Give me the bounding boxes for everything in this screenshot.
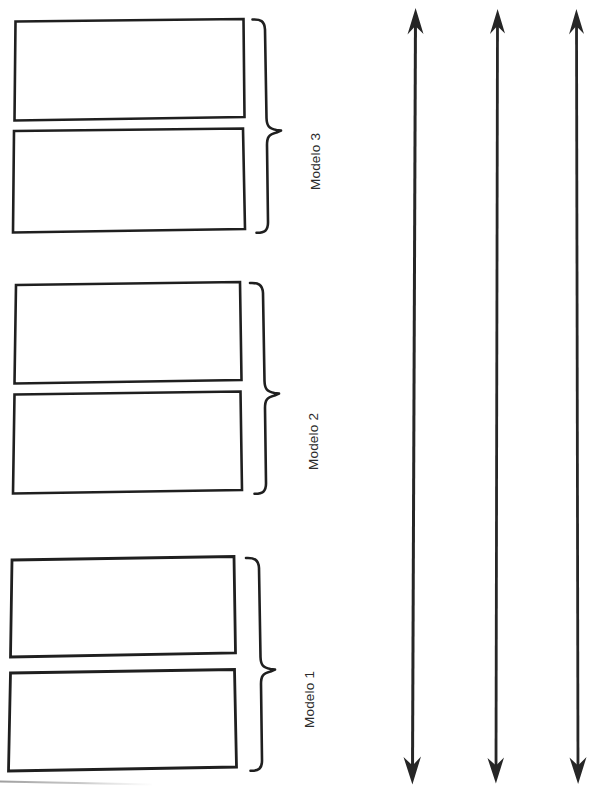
arrow-1[interactable] <box>403 6 427 786</box>
page-edge-line-icon <box>0 782 152 785</box>
curly-brace-rotated-icon-modelo-3 <box>253 19 282 232</box>
curly-brace-rotated-icon-modelo-1 <box>246 558 275 771</box>
group-label-modelo-3: Modelo 3 <box>309 133 323 190</box>
group-label-modelo-1: Modelo 1 <box>303 671 317 728</box>
group-label-modelo-2: Modelo 2 <box>307 413 321 470</box>
panel-modelo-2-b[interactable] <box>13 391 242 494</box>
arrow-2[interactable] <box>486 6 510 786</box>
scanned-page: Modelo 3 Modelo 2 Modelo 1 <box>0 0 602 792</box>
curly-brace-rotated-icon-modelo-2 <box>250 283 279 494</box>
panel-modelo-2-a[interactable] <box>14 282 242 384</box>
arrow-3[interactable] <box>566 6 590 786</box>
panel-modelo-3-a[interactable] <box>14 19 245 121</box>
panel-modelo-1-a[interactable] <box>10 556 236 657</box>
panel-modelo-1-b[interactable] <box>8 669 237 771</box>
panel-modelo-3-b[interactable] <box>13 128 245 233</box>
